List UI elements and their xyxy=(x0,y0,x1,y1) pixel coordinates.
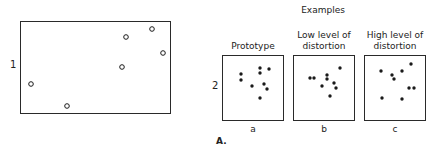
filled-dot-point xyxy=(239,78,242,81)
filled-dot-point xyxy=(320,84,323,87)
filled-dot-point xyxy=(312,76,315,79)
filled-dot-point xyxy=(407,86,410,89)
filled-dot-point xyxy=(265,87,268,90)
filled-dot-point xyxy=(400,69,403,72)
filled-dot-point xyxy=(328,94,331,97)
open-circle-point xyxy=(150,27,155,32)
open-circle-point xyxy=(124,35,129,40)
open-circle-point xyxy=(29,82,34,87)
filled-dot-point xyxy=(409,62,412,65)
filled-dot-point xyxy=(400,97,403,100)
filled-dot-point xyxy=(250,84,253,87)
filled-dot-point xyxy=(380,96,383,99)
filled-dot-point xyxy=(334,86,337,89)
filled-dot-point xyxy=(258,96,261,99)
filled-dot-point xyxy=(308,76,311,79)
filled-dot-point xyxy=(390,73,393,76)
filled-dot-point xyxy=(338,66,341,69)
filled-dot-point xyxy=(379,69,382,72)
filled-dot-point xyxy=(325,77,328,80)
filled-dot-point xyxy=(239,72,242,75)
open-circle-point xyxy=(161,51,166,56)
marker-layer xyxy=(0,0,436,150)
filled-dot-point xyxy=(392,77,395,80)
filled-dot-point xyxy=(412,86,415,89)
filled-dot-point xyxy=(262,82,265,85)
filled-dot-point xyxy=(325,73,328,76)
filled-dot-point xyxy=(267,67,270,70)
filled-dot-point xyxy=(332,81,335,84)
filled-dot-point xyxy=(258,66,261,69)
open-circle-point xyxy=(120,65,125,70)
filled-dot-point xyxy=(258,71,261,74)
open-circle-point xyxy=(65,104,70,109)
